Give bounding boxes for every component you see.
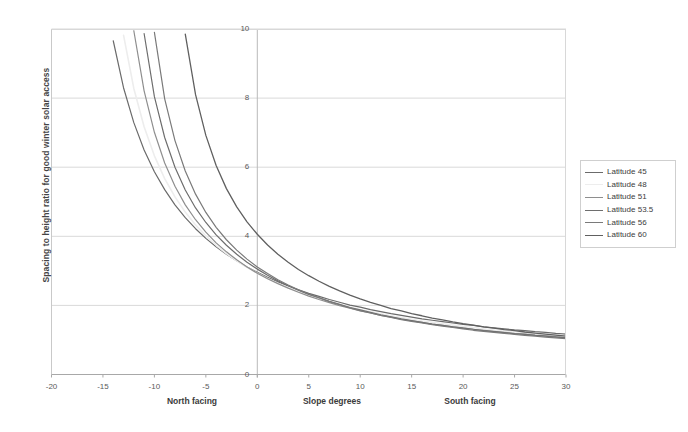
x-tick-label-30: 30 [551,382,581,391]
legend-swatch-icon [585,184,603,185]
legend-item-latitude-51[interactable]: Latitude 51 [585,191,671,204]
x-tick-label--15: -15 [88,382,118,391]
y-tick-label-2: 2 [219,300,249,309]
y-axis-title: Spacing to height ratio for good winter … [41,25,51,325]
x-region-slope-degrees: Slope degrees [262,396,402,406]
y-tick-label-0: 0 [219,370,249,379]
legend-item-latitude-56[interactable]: Latitude 56 [585,216,671,229]
chart-legend[interactable]: Latitude 45Latitude 48Latitude 51Latitud… [580,160,676,248]
x-tick-label--5: -5 [191,382,221,391]
legend-item-latitude-60[interactable]: Latitude 60 [585,229,671,242]
y-tick-label-8: 8 [219,93,249,102]
legend-swatch-icon [585,235,603,236]
x-region-north-facing: North facing [122,396,262,406]
legend-item-latitude-48[interactable]: Latitude 48 [585,179,671,192]
legend-label: Latitude 60 [607,231,647,239]
legend-swatch-icon [585,197,603,198]
x-tick-label--20: -20 [37,382,67,391]
x-tick-label-15: 15 [397,382,427,391]
x-region-south-facing: South facing [400,396,540,406]
x-tick-label-5: 5 [294,382,324,391]
y-tick-label-10: 10 [219,24,249,33]
legend-label: Latitude 48 [607,181,647,189]
legend-item-latitude-53-5[interactable]: Latitude 53.5 [585,204,671,217]
legend-swatch-icon [585,172,603,173]
legend-item-latitude-45[interactable]: Latitude 45 [585,166,671,179]
y-tick-label-6: 6 [219,162,249,171]
legend-label: Latitude 53.5 [607,206,653,214]
plot-frame [51,29,566,375]
y-tick-label-4: 4 [219,231,249,240]
x-tick-label-20: 20 [448,382,478,391]
x-tick-label-10: 10 [345,382,375,391]
x-tick-label--10: -10 [139,382,169,391]
legend-label: Latitude 45 [607,168,647,176]
legend-label: Latitude 51 [607,193,647,201]
x-tick-label-0: 0 [242,382,272,391]
legend-swatch-icon [585,210,603,211]
chart-container: Spacing to height ratio for good winter … [0,0,688,432]
legend-label: Latitude 56 [607,219,647,227]
x-tick-label-25: 25 [500,382,530,391]
legend-swatch-icon [585,222,603,223]
